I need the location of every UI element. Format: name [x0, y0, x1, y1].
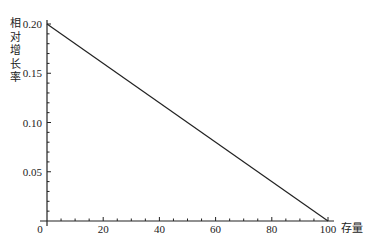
y-tick-label: 0.15 — [23, 67, 43, 79]
y-tick-label: 0.20 — [23, 18, 43, 30]
x-tick-label: 60 — [210, 223, 222, 235]
x-tick-labels: 020406080100 — [37, 223, 337, 235]
y-tick-label: 0.05 — [23, 166, 43, 178]
y-axis-title: 相对增长率 — [10, 17, 21, 84]
y-axis-title-char: 长 — [10, 58, 21, 71]
y-tick-labels: 0.050.100.150.20 — [23, 18, 43, 178]
x-tick-label: 0 — [37, 223, 43, 235]
y-axis-title-char: 增 — [10, 43, 21, 57]
x-tick-label: 40 — [154, 223, 166, 235]
chart: 020406080100 0.050.100.150.20 存量 相对增长率 — [0, 0, 377, 245]
data-line — [47, 24, 328, 221]
y-tick-label: 0.10 — [23, 117, 43, 129]
x-axis-title: 存量 — [341, 221, 363, 235]
y-axis-title-char: 率 — [10, 70, 21, 84]
x-tick-label: 20 — [98, 223, 110, 235]
x-tick-label: 100 — [320, 223, 337, 235]
y-axis-title-char: 对 — [10, 30, 21, 44]
x-tick-label: 80 — [266, 223, 278, 235]
y-axis-title-char: 相 — [10, 17, 21, 30]
